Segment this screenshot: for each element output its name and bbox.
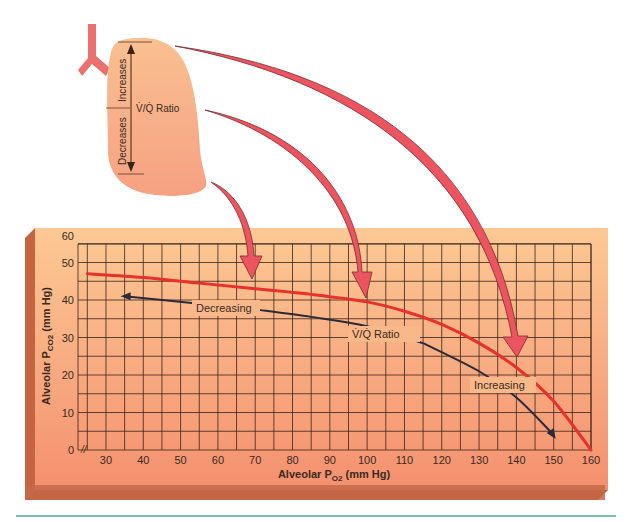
x-tick-label: 70 (249, 454, 261, 466)
x-tick-label: 150 (545, 454, 563, 466)
x-tick-label: 50 (174, 454, 186, 466)
lung-label-vq-ratio: V̇/Q̇ Ratio (136, 102, 180, 114)
vq-diagram: 0102030405060 30405060708090100110120130… (0, 0, 631, 522)
bronchus-icon (78, 24, 110, 76)
y-tick-label: 30 (62, 332, 74, 344)
lung-label-decreases: Decreases (117, 117, 128, 165)
x-tick-label: 80 (286, 454, 298, 466)
x-tick-label: 100 (358, 454, 376, 466)
x-tick-label: 120 (433, 454, 451, 466)
y-tick-label: 20 (62, 369, 74, 381)
panel-side-left (25, 228, 35, 500)
x-tick-label: 130 (470, 454, 488, 466)
panel-bottom-band (25, 485, 605, 500)
x-tick-label: 90 (324, 454, 336, 466)
x-tick-label: 60 (212, 454, 224, 466)
label-decreasing: Decreasing (196, 302, 252, 314)
label-vq-ratio-chart: V̇/Q̇ Ratio (352, 328, 400, 340)
panel-face (35, 228, 608, 490)
x-tick-label: 160 (582, 454, 600, 466)
x-tick-label: 140 (507, 454, 525, 466)
y-tick-label: 60 (62, 230, 74, 242)
x-tick-label: 40 (137, 454, 149, 466)
y-tick-label: 50 (62, 257, 74, 269)
x-tick-label: 110 (396, 454, 414, 466)
x-tick-label: 30 (100, 454, 112, 466)
y-tick-label: 40 (62, 294, 74, 306)
label-increasing: Increasing (474, 379, 525, 391)
y-tick-label: 10 (62, 407, 74, 419)
y-tick-label: 0 (68, 444, 74, 456)
lung-illustration: Increases Decreases V̇/Q̇ Ratio (78, 24, 206, 196)
lung-label-increases: Increases (117, 59, 128, 102)
